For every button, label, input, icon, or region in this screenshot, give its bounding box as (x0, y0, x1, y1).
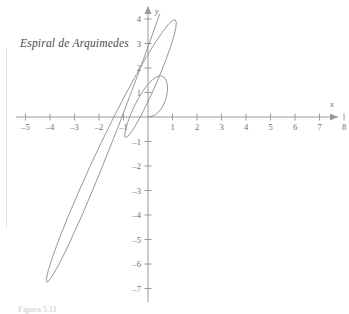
figure-caption: Figura 5.11 (18, 305, 57, 314)
y-axis-label: y (154, 6, 159, 16)
x-tick-label: 7 (317, 122, 321, 132)
axes-group (16, 6, 338, 302)
y-tick-label: –1 (132, 137, 142, 147)
y-tick-label: –3 (132, 186, 142, 196)
y-tick-label: 3 (137, 39, 141, 49)
x-tick-label: 5 (268, 122, 272, 132)
y-axis-arrow-icon (145, 6, 152, 14)
x-tick-label: 1 (170, 122, 174, 132)
x-tick-label: –5 (20, 122, 30, 132)
y-tick-label: –6 (132, 259, 142, 269)
x-tick-label: 3 (219, 122, 223, 132)
y-tick-label: –7 (132, 284, 142, 294)
page-margin-rule (6, 48, 7, 228)
x-tick-label: –2 (94, 122, 104, 132)
x-tick-label: 4 (244, 122, 249, 132)
x-tick-label: 6 (293, 122, 297, 132)
x-tick-label: 2 (195, 122, 199, 132)
x-axis-arrow-icon (330, 114, 338, 121)
x-tick-label: –4 (45, 122, 55, 132)
y-tick-label: 4 (137, 14, 142, 24)
y-tick-label: –4 (132, 210, 142, 220)
plot-title: Espiral de Arquimedes (20, 37, 129, 49)
x-axis-label: x (329, 99, 334, 109)
x-axis-ticks: –5–4–3–2–112345678 (20, 114, 346, 133)
x-tick-label: 8 (342, 122, 346, 132)
x-tick-label: –3 (69, 122, 79, 132)
y-tick-label: –2 (132, 161, 142, 171)
y-tick-label: –5 (132, 235, 142, 245)
spiral-curve (46, 14, 176, 283)
